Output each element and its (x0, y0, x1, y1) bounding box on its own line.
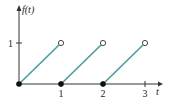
open-point (100, 40, 105, 45)
plot-marks (16, 40, 147, 86)
series-line-segment-3 (103, 45, 143, 84)
open-point (58, 40, 63, 45)
open-point (142, 40, 147, 45)
x-tick-label: 3 (143, 88, 148, 99)
y-axis-label: f(t) (22, 4, 35, 16)
closed-point (100, 81, 106, 87)
sawtooth-chart: 1231 f(t) t (0, 0, 172, 103)
axes: 1231 (8, 5, 163, 99)
x-axis-label: t (156, 86, 159, 97)
closed-point (16, 81, 22, 87)
x-tick-label: 1 (59, 88, 64, 99)
series-line-segment-1 (19, 45, 59, 84)
closed-point (58, 81, 64, 87)
y-axis-arrow-icon (17, 5, 22, 11)
x-tick-label: 2 (101, 88, 106, 99)
y-tick-label: 1 (8, 38, 13, 49)
series-line-segment-2 (61, 45, 101, 84)
